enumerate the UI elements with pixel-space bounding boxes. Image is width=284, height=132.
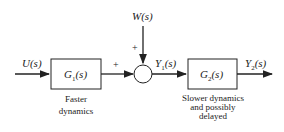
intermediate-signal-label: Y1(s) (155, 57, 176, 74)
block-g1-caption: Faster dynamics (51, 95, 101, 116)
output-signal-label: Y2(s) (245, 57, 266, 74)
disturbance-signal-label: W(s) (132, 10, 153, 22)
block-g2-label: G2(s) (200, 68, 223, 85)
sum-sign-left: + (113, 60, 119, 70)
block-g2-caption: Slower dynamics and possibly delayed (172, 94, 254, 121)
block-g1-label: G1(s) (64, 68, 87, 85)
input-signal-label: U(s) (22, 57, 42, 69)
sum-sign-top: + (132, 43, 138, 53)
summing-junction (134, 65, 152, 83)
